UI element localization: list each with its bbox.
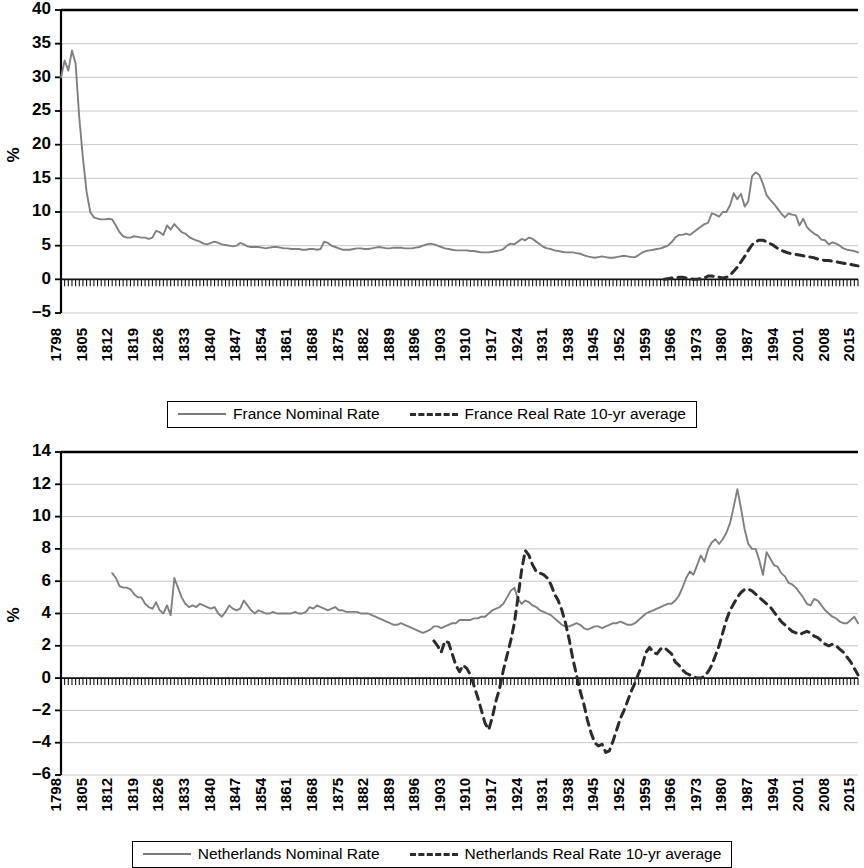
x-tick-label: 1966: [661, 778, 678, 811]
x-tick-label: 1966: [661, 328, 678, 361]
x-tick-label: 1931: [533, 778, 550, 811]
x-tick-label: 1952: [610, 328, 627, 361]
x-tick-label-group: 1994: [764, 327, 781, 361]
x-tick-label-group: 1973: [687, 778, 704, 811]
x-tick-label-group: 1966: [661, 778, 678, 811]
x-tick-label: 1833: [175, 778, 192, 811]
legend-label-netherlands-real: Netherlands Real Rate 10-yr average: [465, 845, 722, 863]
y-tick-label: 35: [32, 33, 51, 52]
x-tick-label-group: 1903: [431, 328, 448, 361]
x-tick-label-group: 1840: [201, 778, 218, 811]
x-tick-label-group: 1924: [508, 777, 525, 811]
y-tick-label: 4: [42, 603, 52, 622]
x-tick-label-group: 1931: [533, 328, 550, 361]
x-tick-label-group: 1987: [738, 328, 755, 361]
y-tick-label: 2: [42, 635, 51, 654]
x-tick-label: 1826: [149, 328, 166, 361]
x-tick-label-group: 1938: [559, 778, 576, 811]
x-tick-label-group: 2015: [840, 778, 857, 811]
y-tick-label: 20: [32, 134, 51, 153]
x-tick-label-group: 2015: [840, 328, 857, 361]
x-tick-label: 1994: [764, 327, 781, 361]
x-tick-label-group: 1987: [738, 778, 755, 811]
x-tick-label: 1938: [559, 778, 576, 811]
x-tick-label-group: 1931: [533, 778, 550, 811]
x-tick-label-group: 1826: [149, 328, 166, 361]
line-swatch-solid-icon: [143, 853, 191, 855]
x-tick-label: 1798: [47, 778, 64, 811]
x-tick-label-group: 1847: [226, 778, 243, 811]
x-tick-label-group: 1980: [712, 328, 729, 361]
x-tick-label-group: 1868: [303, 778, 320, 811]
x-tick-label: 1847: [226, 328, 243, 361]
x-tick-label: 1896: [405, 328, 422, 361]
x-tick-label-group: 1952: [610, 778, 627, 811]
chart-panel-netherlands: % –6–4–202468101214179818051812181918261…: [0, 440, 864, 840]
x-tick-label-group: 2001: [789, 328, 806, 361]
legend-item-netherlands-nominal: Netherlands Nominal Rate: [143, 845, 380, 863]
x-tick-label-group: 1917: [482, 328, 499, 361]
x-tick-label: 1882: [354, 778, 371, 811]
x-tick-label: 1980: [712, 328, 729, 361]
y-tick-label: 10: [32, 506, 51, 525]
x-tick-label: 1840: [201, 778, 218, 811]
x-tick-label: 1819: [124, 328, 141, 361]
x-tick-label: 1987: [738, 328, 755, 361]
x-tick-label-group: 1882: [354, 778, 371, 811]
series-line-dashed: [434, 551, 858, 753]
x-tick-label: 1973: [687, 328, 704, 361]
x-tick-label: 1980: [712, 778, 729, 811]
x-tick-label-group: 1854: [252, 777, 269, 811]
y-tick-label: –2: [32, 700, 51, 719]
x-tick-label: 1994: [764, 777, 781, 811]
chart-panel-france: % –5051015202530354017981805181218191826…: [0, 0, 864, 400]
x-tick-label-group: 1910: [456, 328, 473, 361]
x-tick-label: 1959: [636, 778, 653, 811]
x-tick-label-group: 1861: [277, 328, 294, 361]
x-tick-label-group: 1903: [431, 778, 448, 811]
y-tick-label: 5: [42, 235, 51, 254]
line-swatch-dashed-icon: [410, 853, 458, 856]
legend-france: France Nominal Rate France Real Rate 10-…: [0, 401, 864, 428]
x-tick-label-group: 1966: [661, 328, 678, 361]
x-tick-label: 1826: [149, 778, 166, 811]
x-tick-label: 1861: [277, 328, 294, 361]
x-tick-label: 1910: [456, 778, 473, 811]
y-axis-label-france: %: [4, 140, 24, 170]
x-tick-label: 1945: [584, 778, 601, 811]
x-tick-label: 2001: [789, 328, 806, 361]
chart-france: –505101520253035401798180518121819182618…: [0, 0, 864, 400]
x-tick-label-group: 1805: [73, 328, 90, 361]
x-tick-label-group: 1805: [73, 778, 90, 811]
x-tick-label-group: 1875: [329, 778, 346, 811]
x-tick-label: 1854: [252, 327, 269, 361]
line-swatch-solid-icon: [178, 413, 226, 415]
x-tick-label: 1924: [508, 777, 525, 811]
x-tick-label: 1847: [226, 778, 243, 811]
x-tick-label: 1945: [584, 328, 601, 361]
x-tick-label: 1889: [380, 328, 397, 361]
x-tick-label-group: 1889: [380, 328, 397, 361]
x-tick-label-group: 1812: [98, 328, 115, 361]
x-tick-label-group: 1896: [405, 328, 422, 361]
x-tick-label-group: 2001: [789, 778, 806, 811]
x-tick-label-group: 1861: [277, 778, 294, 811]
y-axis-label-netherlands: %: [4, 600, 24, 630]
x-tick-label-group: 1917: [482, 778, 499, 811]
legend-item-france-real: France Real Rate 10-yr average: [410, 405, 686, 423]
x-tick-label-group: 1847: [226, 328, 243, 361]
legend-netherlands: Netherlands Nominal Rate Netherlands Rea…: [0, 841, 864, 868]
x-tick-label: 2015: [840, 778, 857, 811]
x-tick-label: 1805: [73, 328, 90, 361]
x-tick-label: 1917: [482, 328, 499, 361]
x-tick-label-group: 1854: [252, 327, 269, 361]
x-tick-label: 1903: [431, 778, 448, 811]
x-tick-label: 2015: [840, 328, 857, 361]
x-tick-label: 1931: [533, 328, 550, 361]
x-tick-label-group: 1896: [405, 778, 422, 811]
y-tick-label: 12: [32, 474, 51, 493]
y-tick-label: 10: [32, 201, 51, 220]
chart-netherlands: –6–4–20246810121417981805181218191826183…: [0, 440, 864, 840]
x-tick-label: 2008: [815, 328, 832, 361]
x-tick-label: 1812: [98, 328, 115, 361]
